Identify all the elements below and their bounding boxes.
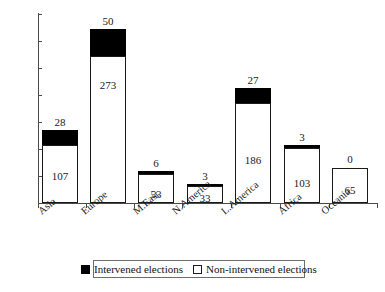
bar-europe-nonintervened: 273 [90,56,126,203]
bar-africa-top-value: 3 [285,131,319,143]
legend-label-intervened: Intervened elections [94,263,183,275]
filled-square-icon [81,265,90,274]
bar-lamerica-intervened: 27 [235,88,271,103]
bar-europe: 50 273 [90,29,126,203]
bar-lamerica-top-value: 27 [236,74,270,86]
bar-africa-nonintervened: 103 [284,148,320,203]
legend-label-nonintervened: Non-intervened elections [206,263,317,275]
x-tick-sep [377,203,378,208]
chart-legend: Intervened elections Non-intervened elec… [93,260,305,278]
bar-europe-value: 273 [91,79,125,91]
legend-item-nonintervened: Non-intervened elections [193,263,317,275]
y-tick-mark [38,95,42,96]
y-tick-mark [38,41,42,42]
y-tick-mark [38,68,42,69]
bar-asia-top-value: 28 [43,116,77,128]
bar-europe-intervened: 50 [90,29,126,56]
bar-asia: 28 107 [42,130,78,203]
bar-africa-value: 103 [285,177,319,189]
bar-asia-intervened: 28 [42,130,78,145]
bar-lamerica-value: 186 [236,154,270,166]
y-tick-mark [38,14,42,15]
stacked-bar-chart: 350 300 250 200 150 100 50 0 28 [0,0,385,292]
y-tick-mark [38,122,42,123]
legend-item-intervened: Intervened elections [81,263,183,275]
bar-asia-value: 107 [43,170,77,182]
bar-meast-top-value: 6 [139,157,173,169]
bar-oceania-top-value: 0 [333,153,367,165]
bar-asia-nonintervened: 107 [42,145,78,203]
hollow-square-icon [193,265,202,274]
bar-africa: 3 103 [284,146,320,203]
bar-europe-top-value: 50 [91,15,125,27]
